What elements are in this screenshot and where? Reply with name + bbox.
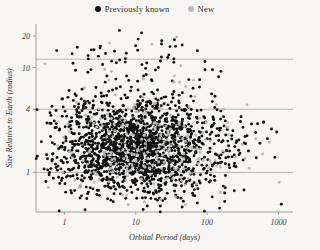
data-point xyxy=(72,132,75,135)
data-point xyxy=(132,134,135,137)
data-point xyxy=(107,109,110,112)
data-point xyxy=(178,94,181,97)
data-point xyxy=(194,152,197,155)
legend-item-previously-known[interactable]: Previously known xyxy=(95,4,170,14)
data-point xyxy=(110,151,113,154)
data-point xyxy=(126,96,129,99)
data-point xyxy=(133,147,136,150)
data-point xyxy=(140,169,143,172)
data-point xyxy=(188,142,191,145)
data-point xyxy=(159,107,162,110)
data-point xyxy=(152,170,155,173)
data-point xyxy=(125,52,128,55)
data-point xyxy=(110,60,113,63)
data-point xyxy=(156,154,159,157)
data-point xyxy=(81,145,84,148)
data-point xyxy=(56,144,59,147)
data-point xyxy=(123,94,126,97)
data-point xyxy=(219,118,222,121)
data-point xyxy=(119,85,122,88)
data-point xyxy=(142,208,145,211)
data-point xyxy=(111,176,114,179)
data-point xyxy=(50,114,53,117)
data-point xyxy=(160,167,163,170)
data-point xyxy=(215,165,218,168)
data-point xyxy=(233,145,236,148)
data-point xyxy=(205,131,208,134)
data-point xyxy=(118,145,121,148)
data-point xyxy=(185,169,188,172)
data-point xyxy=(71,146,74,149)
data-point xyxy=(178,170,181,173)
data-point xyxy=(180,109,183,112)
data-point xyxy=(74,139,77,142)
data-point xyxy=(174,195,177,198)
data-point xyxy=(101,124,104,127)
data-point xyxy=(58,129,61,132)
data-point xyxy=(144,112,147,115)
data-point xyxy=(104,81,107,84)
data-point xyxy=(133,144,136,147)
data-point xyxy=(202,143,205,146)
data-point xyxy=(148,100,151,103)
filled-circle-icon xyxy=(188,6,194,12)
data-point xyxy=(173,174,176,177)
data-point xyxy=(230,134,233,137)
data-point xyxy=(161,154,164,157)
data-point xyxy=(102,95,105,98)
data-point xyxy=(130,191,133,194)
data-point xyxy=(213,175,216,178)
data-point xyxy=(99,117,102,120)
data-point xyxy=(98,131,101,134)
data-point xyxy=(234,156,237,159)
data-point xyxy=(95,193,98,196)
data-point xyxy=(180,174,183,177)
data-point xyxy=(92,104,95,107)
data-point xyxy=(86,122,89,125)
data-point xyxy=(86,163,89,166)
data-point xyxy=(82,126,85,129)
data-point xyxy=(135,122,138,125)
data-point xyxy=(145,174,148,177)
data-point xyxy=(144,142,147,145)
data-point xyxy=(108,168,111,171)
data-point xyxy=(193,188,196,191)
data-point xyxy=(219,166,222,169)
data-point xyxy=(136,164,139,167)
data-point xyxy=(174,104,177,107)
legend-item-new[interactable]: New xyxy=(188,4,215,14)
data-point xyxy=(124,57,127,60)
data-point xyxy=(215,134,218,137)
data-point xyxy=(140,148,143,151)
data-point xyxy=(199,131,202,134)
data-point xyxy=(172,177,175,180)
data-point xyxy=(69,189,72,192)
data-point xyxy=(138,167,141,170)
data-point xyxy=(132,123,135,126)
data-point xyxy=(113,113,116,116)
data-point xyxy=(109,173,112,176)
data-point xyxy=(116,170,119,173)
x-tick-label: 10 xyxy=(132,218,140,227)
data-point xyxy=(59,146,62,149)
data-point xyxy=(158,146,161,149)
data-point xyxy=(93,48,96,51)
data-point xyxy=(254,131,257,134)
data-point xyxy=(228,166,231,169)
data-point xyxy=(95,126,98,129)
data-point xyxy=(47,186,50,189)
data-point xyxy=(187,149,190,152)
data-point xyxy=(60,160,63,163)
data-point xyxy=(237,149,240,152)
data-point xyxy=(159,198,162,201)
data-point xyxy=(176,196,179,199)
data-point xyxy=(175,36,178,39)
data-point xyxy=(209,173,212,176)
data-point xyxy=(244,157,247,160)
data-point xyxy=(140,31,143,34)
data-point xyxy=(190,108,193,111)
data-point xyxy=(74,161,77,164)
data-point xyxy=(163,102,166,105)
data-point xyxy=(127,79,130,82)
data-point xyxy=(137,125,140,128)
